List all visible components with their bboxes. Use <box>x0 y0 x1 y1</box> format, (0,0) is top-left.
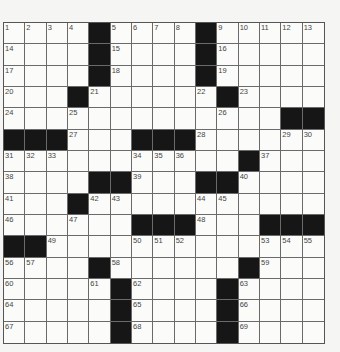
grid-cell[interactable]: 1 <box>4 23 25 44</box>
grid-cell[interactable]: 45 <box>217 194 238 215</box>
grid-cell[interactable] <box>281 194 302 215</box>
grid-cell[interactable] <box>196 236 217 257</box>
grid-cell[interactable]: 6 <box>132 23 153 44</box>
grid-cell[interactable]: 58 <box>111 258 132 279</box>
grid-cell[interactable] <box>175 300 196 321</box>
grid-cell[interactable]: 47 <box>68 215 89 236</box>
grid-cell[interactable] <box>175 87 196 108</box>
grid-cell[interactable] <box>260 194 281 215</box>
grid-cell[interactable] <box>89 130 110 151</box>
grid-cell[interactable] <box>68 151 89 172</box>
grid-cell[interactable]: 46 <box>4 215 25 236</box>
grid-cell[interactable]: 68 <box>132 322 153 343</box>
grid-cell[interactable] <box>260 44 281 65</box>
grid-cell[interactable] <box>47 215 68 236</box>
grid-cell[interactable]: 65 <box>132 300 153 321</box>
grid-cell[interactable] <box>196 258 217 279</box>
grid-cell[interactable] <box>132 258 153 279</box>
grid-cell[interactable] <box>175 44 196 65</box>
grid-cell[interactable] <box>281 87 302 108</box>
grid-cell[interactable] <box>217 236 238 257</box>
grid-cell[interactable]: 15 <box>111 44 132 65</box>
grid-cell[interactable] <box>47 322 68 343</box>
grid-cell[interactable] <box>239 236 260 257</box>
grid-cell[interactable] <box>196 151 217 172</box>
grid-cell[interactable] <box>47 87 68 108</box>
grid-cell[interactable]: 25 <box>68 108 89 129</box>
grid-cell[interactable] <box>111 87 132 108</box>
grid-cell[interactable]: 34 <box>132 151 153 172</box>
grid-cell[interactable] <box>111 236 132 257</box>
grid-cell[interactable]: 13 <box>303 23 324 44</box>
grid-cell[interactable] <box>260 66 281 87</box>
grid-cell[interactable] <box>281 44 302 65</box>
grid-cell[interactable] <box>239 130 260 151</box>
grid-cell[interactable] <box>303 66 324 87</box>
grid-cell[interactable]: 7 <box>153 23 174 44</box>
grid-cell[interactable] <box>260 130 281 151</box>
grid-cell[interactable] <box>153 87 174 108</box>
grid-cell[interactable]: 10 <box>239 23 260 44</box>
grid-cell[interactable] <box>175 258 196 279</box>
grid-cell[interactable] <box>281 322 302 343</box>
grid-cell[interactable] <box>303 87 324 108</box>
grid-cell[interactable] <box>111 108 132 129</box>
grid-cell[interactable] <box>260 279 281 300</box>
grid-cell[interactable] <box>153 66 174 87</box>
grid-cell[interactable] <box>303 258 324 279</box>
grid-cell[interactable] <box>111 215 132 236</box>
grid-cell[interactable] <box>47 66 68 87</box>
grid-cell[interactable] <box>260 108 281 129</box>
grid-cell[interactable]: 14 <box>4 44 25 65</box>
grid-cell[interactable] <box>111 151 132 172</box>
grid-cell[interactable] <box>196 279 217 300</box>
grid-cell[interactable]: 43 <box>111 194 132 215</box>
grid-cell[interactable] <box>47 300 68 321</box>
grid-cell[interactable] <box>175 194 196 215</box>
grid-cell[interactable] <box>239 108 260 129</box>
grid-cell[interactable]: 41 <box>4 194 25 215</box>
grid-cell[interactable] <box>217 258 238 279</box>
grid-cell[interactable] <box>175 172 196 193</box>
grid-cell[interactable]: 9 <box>217 23 238 44</box>
grid-cell[interactable] <box>47 194 68 215</box>
grid-cell[interactable]: 44 <box>196 194 217 215</box>
grid-cell[interactable] <box>217 215 238 236</box>
grid-cell[interactable] <box>25 194 46 215</box>
grid-cell[interactable]: 54 <box>281 236 302 257</box>
grid-cell[interactable]: 53 <box>260 236 281 257</box>
grid-cell[interactable] <box>260 87 281 108</box>
grid-cell[interactable] <box>260 300 281 321</box>
grid-cell[interactable]: 31 <box>4 151 25 172</box>
grid-cell[interactable]: 21 <box>89 87 110 108</box>
grid-cell[interactable]: 62 <box>132 279 153 300</box>
grid-cell[interactable] <box>303 322 324 343</box>
grid-cell[interactable]: 61 <box>89 279 110 300</box>
grid-cell[interactable] <box>68 279 89 300</box>
grid-cell[interactable]: 40 <box>239 172 260 193</box>
grid-cell[interactable]: 69 <box>239 322 260 343</box>
grid-cell[interactable]: 16 <box>217 44 238 65</box>
grid-cell[interactable]: 4 <box>68 23 89 44</box>
grid-cell[interactable] <box>175 322 196 343</box>
grid-cell[interactable]: 28 <box>196 130 217 151</box>
grid-cell[interactable] <box>68 236 89 257</box>
grid-cell[interactable] <box>68 300 89 321</box>
grid-cell[interactable] <box>153 300 174 321</box>
grid-cell[interactable]: 55 <box>303 236 324 257</box>
grid-cell[interactable] <box>132 44 153 65</box>
grid-cell[interactable]: 38 <box>4 172 25 193</box>
grid-cell[interactable] <box>153 108 174 129</box>
grid-cell[interactable] <box>239 66 260 87</box>
grid-cell[interactable] <box>25 322 46 343</box>
grid-cell[interactable]: 60 <box>4 279 25 300</box>
grid-cell[interactable]: 3 <box>47 23 68 44</box>
grid-cell[interactable]: 20 <box>4 87 25 108</box>
grid-cell[interactable]: 36 <box>175 151 196 172</box>
grid-cell[interactable] <box>239 194 260 215</box>
grid-cell[interactable]: 8 <box>175 23 196 44</box>
grid-cell[interactable] <box>25 44 46 65</box>
grid-cell[interactable] <box>217 151 238 172</box>
grid-cell[interactable] <box>260 322 281 343</box>
grid-cell[interactable] <box>25 66 46 87</box>
